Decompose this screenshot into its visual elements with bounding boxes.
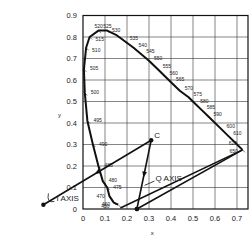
wavelength-label: 565 bbox=[176, 76, 185, 82]
y-tick-label: 0.3 bbox=[67, 140, 77, 149]
wavelength-label: 570 bbox=[185, 85, 194, 91]
wavelength-label: 575 bbox=[194, 91, 203, 97]
wavelength-label: 475 bbox=[113, 184, 122, 190]
y-tick-labels: 00.10.20.30.40.50.60.70.80.9 bbox=[67, 11, 77, 214]
axis-annotations: I AXISQ AXIS bbox=[41, 140, 242, 211]
wavelength-label: 515 bbox=[96, 36, 105, 42]
y-tick-label: 0.9 bbox=[67, 11, 77, 20]
y-tick-label: 0 bbox=[73, 205, 77, 214]
wavelength-label: 590 bbox=[213, 111, 222, 117]
i-axis-label: I AXIS bbox=[57, 194, 79, 203]
wavelength-label: 585 bbox=[207, 104, 216, 110]
point-label: C bbox=[154, 131, 160, 140]
y-tick-label: 0.2 bbox=[67, 162, 77, 171]
axis-endpoint bbox=[135, 207, 139, 211]
wavelength-label: 610 bbox=[233, 130, 242, 136]
wavelength-label: 580 bbox=[200, 98, 209, 104]
x-tick-label: 0 bbox=[81, 214, 85, 223]
wavelength-label: 530 bbox=[112, 27, 121, 33]
wavelength-label: 460 bbox=[102, 201, 111, 207]
q-axis-label: Q AXIS bbox=[156, 174, 182, 183]
wavelength-label: 540 bbox=[139, 42, 148, 48]
wavelength-label: 535 bbox=[130, 35, 139, 41]
q-axis-leader bbox=[145, 181, 155, 185]
wavelength-label: 500 bbox=[91, 89, 100, 95]
wavelength-label: 505 bbox=[90, 65, 99, 71]
wavelength-tick bbox=[243, 150, 246, 153]
x-tick-labels: 00.10.20.30.40.50.60.7 bbox=[81, 214, 242, 223]
wavelength-label: 560 bbox=[169, 70, 178, 76]
wavelength-label: 555 bbox=[163, 63, 172, 69]
x-tick-label: 0.5 bbox=[188, 214, 198, 223]
y-tick-label: 0.4 bbox=[67, 119, 77, 128]
wavelength-label: 495 bbox=[93, 117, 102, 123]
wavelength-label: 600 bbox=[227, 123, 236, 129]
wavelength-label: 525 bbox=[103, 23, 112, 29]
x-axis-label: x bbox=[151, 230, 154, 236]
chromaticity-chart: 00.10.20.30.40.50.60.7 00.10.20.30.40.50… bbox=[0, 0, 251, 241]
y-tick-label: 0.6 bbox=[67, 76, 77, 85]
wavelength-label: 490 bbox=[99, 141, 108, 147]
y-tick-label: 0.5 bbox=[67, 97, 77, 106]
axis-endpoint bbox=[41, 203, 45, 207]
x-tick-label: 0.4 bbox=[166, 214, 176, 223]
wavelength-tick bbox=[118, 205, 121, 208]
x-tick-label: 0.2 bbox=[122, 214, 132, 223]
point-marker bbox=[149, 138, 153, 142]
wavelength-label: 510 bbox=[92, 47, 101, 53]
wavelength-label: 520 bbox=[94, 23, 103, 29]
wavelength-label: 470 bbox=[96, 193, 105, 199]
wavelength-label: 480 bbox=[109, 177, 118, 183]
x-tick-label: 0.1 bbox=[100, 214, 110, 223]
y-tick-label: 0.7 bbox=[67, 54, 77, 63]
points: C bbox=[149, 131, 160, 142]
y-tick-label: 0.8 bbox=[67, 33, 77, 42]
wavelength-label: 545 bbox=[146, 48, 155, 54]
axis-line bbox=[137, 150, 243, 209]
wavelength-label: 550 bbox=[154, 55, 163, 61]
x-tick-label: 0.6 bbox=[210, 214, 220, 223]
x-tick-label: 0.7 bbox=[232, 214, 242, 223]
x-tick-label: 0.3 bbox=[144, 214, 154, 223]
y-axis-label: y bbox=[58, 112, 61, 118]
